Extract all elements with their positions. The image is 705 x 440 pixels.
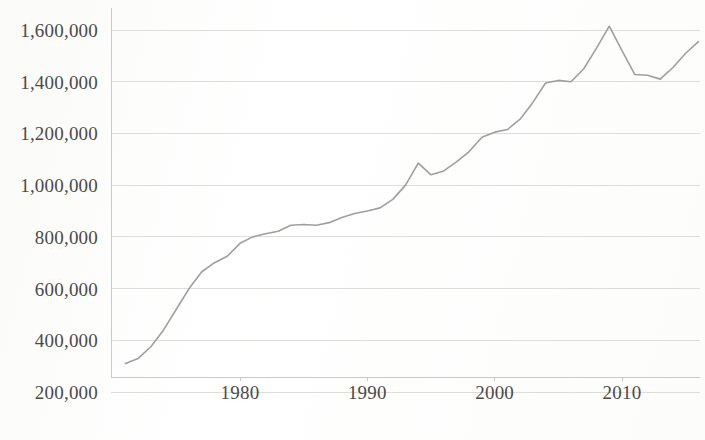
- line-chart: 200,000400,000600,000800,0001,000,0001,2…: [0, 0, 705, 440]
- x-tick-label: 1980: [221, 383, 260, 402]
- x-tick-label: 2000: [475, 383, 514, 402]
- x-axis-tick-labels: 1980199020002010: [0, 0, 705, 440]
- x-tick-label: 1990: [348, 383, 387, 402]
- x-tick-label: 2010: [603, 383, 642, 402]
